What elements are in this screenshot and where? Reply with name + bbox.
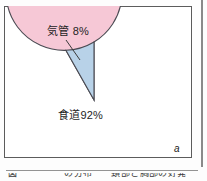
pie-label-esophagus: 食道92% (58, 106, 103, 122)
figure-caption-text: 図 の分布 頚部と胸部の好発 (8, 173, 186, 179)
pie-chart-svg (4, 6, 192, 158)
page-gutter-rule (201, 0, 203, 167)
pie-slice-trachea (66, 42, 94, 100)
panel-letter-label: a (174, 143, 180, 154)
caption-separator-rule (6, 170, 198, 171)
pie-chart (4, 6, 192, 158)
pie-slice-esophagus (6, 6, 122, 100)
figure-caption-cropped: 図 の分布 頚部と胸部の好発 (8, 173, 186, 181)
pie-label-trachea: 気管 8% (47, 22, 89, 38)
